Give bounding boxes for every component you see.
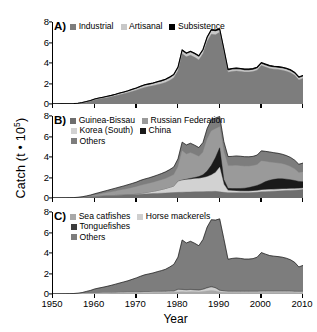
x-tick-label: 1990 xyxy=(208,298,229,309)
panel-b-x-tick-mark xyxy=(260,198,261,202)
panel-a-x-tick-mark xyxy=(177,104,178,108)
y-axis-label-paren: ) xyxy=(14,118,28,122)
legend-item: Others xyxy=(71,232,105,242)
x-tick-label: 2010 xyxy=(291,298,312,309)
panel-b-y-tick-mark xyxy=(49,115,53,116)
panel-c-x-tick-mark xyxy=(94,294,95,298)
legend-swatch-sea-catfishes xyxy=(70,214,76,220)
x-tick-label: 1970 xyxy=(125,298,146,309)
panel-c-x-tick-mark xyxy=(52,294,53,298)
x-tick-label: 2000 xyxy=(250,298,271,309)
legend-item: Korea (South) xyxy=(71,125,133,135)
panel-a-x-tick-mark xyxy=(260,104,261,108)
panel-a-x-tick-mark xyxy=(135,104,136,108)
panel-c-x-tick-mark xyxy=(219,294,220,298)
panel-c-label: C) xyxy=(54,211,66,221)
legend-item: Tonguefishes xyxy=(71,221,130,231)
panel-a-label: A) xyxy=(54,21,66,31)
legend-swatch-horse-mackerels xyxy=(137,214,143,220)
legend-row: A)IndustrialArtisanalSubsistence xyxy=(54,21,232,31)
panel-b-x-tick-mark xyxy=(177,198,178,202)
legend-swatch-china xyxy=(140,128,146,134)
panel-a-legend: A)IndustrialArtisanalSubsistence xyxy=(54,21,232,31)
panel-a-y-tick-mark xyxy=(49,62,53,63)
legend-swatch-others-c xyxy=(71,234,77,240)
panel-b-label: B) xyxy=(54,115,66,125)
x-tick-label: 1950 xyxy=(41,298,62,309)
legend-row: B)Guinea-BissauRussian Federation xyxy=(54,115,232,125)
legend-item: Horse mackerels xyxy=(137,211,210,221)
legend-label: Others xyxy=(80,232,106,242)
legend-row: Tonguefishes xyxy=(54,221,217,231)
legend-swatch-others-b xyxy=(71,138,77,144)
legend-item: Subsistence xyxy=(169,21,224,31)
panel-c-x-tick-mark xyxy=(177,294,178,298)
x-axis-label-text: Year xyxy=(129,312,187,326)
legend-row: Others xyxy=(54,136,232,146)
legend-swatch-russian-federation xyxy=(142,118,148,124)
panel-c-y-tick-mark xyxy=(49,273,53,274)
legend-row: C)Sea catfishesHorse mackerels xyxy=(54,211,217,221)
legend-swatch-industrial xyxy=(70,24,76,30)
panel-a-y-tick-mark xyxy=(49,42,53,43)
legend-row: Korea (South)China xyxy=(54,125,232,135)
panel-c-x-tick-mark xyxy=(302,294,303,298)
panel-a-x-tick-mark xyxy=(302,104,303,108)
legend-swatch-korea-south xyxy=(71,128,77,134)
legend-label: Horse mackerels xyxy=(146,211,210,221)
legend-row: Others xyxy=(54,232,217,242)
panel-b-y-tick-mark xyxy=(49,156,53,157)
panel-a-x-tick-mark xyxy=(52,104,53,108)
panel-b-x-tick-mark xyxy=(302,198,303,202)
panel-b-x-tick-mark xyxy=(135,198,136,202)
figure-root: Catch (t • 105) A)IndustrialArtisanalSub… xyxy=(0,0,317,332)
legend-item: Guinea-Bissau xyxy=(70,115,135,125)
panel-b-x-tick-mark xyxy=(219,198,220,202)
legend-item: Russian Federation xyxy=(142,115,225,125)
legend-swatch-subsistence xyxy=(169,24,175,30)
legend-label: Subsistence xyxy=(178,21,225,31)
x-axis-label: Year xyxy=(0,312,317,326)
y-axis-label-text: Catch (t xyxy=(14,150,28,199)
legend-label: Others xyxy=(80,136,106,146)
legend-swatch-artisanal xyxy=(121,24,127,30)
panel-a-y-tick-mark xyxy=(49,21,53,22)
legend-swatch-tonguefishes xyxy=(71,224,77,230)
legend-label: Sea catfishes xyxy=(79,211,131,221)
panel-b-y-tick-mark xyxy=(49,136,53,137)
panel-c-x-tick-mark xyxy=(135,294,136,298)
panel-b: B)Guinea-BissauRussian FederationKorea (… xyxy=(52,116,302,198)
panel-a-areas xyxy=(53,22,303,104)
y-axis-label-exponent: 5 xyxy=(12,122,22,127)
panel-b-y-tick-mark xyxy=(49,177,53,178)
panel-b-x-tick-mark xyxy=(94,198,95,202)
legend-label: Korea (South) xyxy=(80,125,134,135)
legend-item: China xyxy=(140,125,171,135)
legend-item: Industrial xyxy=(70,21,113,31)
panel-b-legend: B)Guinea-BissauRussian FederationKorea (… xyxy=(54,115,232,146)
panel-c-y-tick-mark xyxy=(49,252,53,253)
panel-a-plot-area xyxy=(52,22,302,104)
legend-label: Artisanal xyxy=(129,21,162,31)
legend-label: Guinea-Bissau xyxy=(79,115,135,125)
legend-item: Sea catfishes xyxy=(70,211,130,221)
panel-c-y-tick-mark xyxy=(49,232,53,233)
panel-c: C)Sea catfishesHorse mackerelsTonguefish… xyxy=(52,212,302,294)
x-tick-label: 1960 xyxy=(83,298,104,309)
panel-c-legend: C)Sea catfishesHorse mackerelsTonguefish… xyxy=(54,211,217,242)
legend-label: China xyxy=(149,125,171,135)
legend-item: Artisanal xyxy=(121,21,163,31)
legend-label: Industrial xyxy=(79,21,114,31)
panel-a-x-tick-mark xyxy=(94,104,95,108)
panel-a-y-tick-mark xyxy=(49,83,53,84)
legend-item: Others xyxy=(71,136,105,146)
legend-swatch-guinea-bissau xyxy=(70,118,76,124)
y-axis-label-dot: • 10 xyxy=(14,127,28,150)
panel-c-x-tick-mark xyxy=(260,294,261,298)
y-axis-label: Catch (t • 105) xyxy=(12,98,28,218)
legend-label: Tonguefishes xyxy=(80,221,131,231)
panel-b-x-tick-mark xyxy=(52,198,53,202)
legend-label: Russian Federation xyxy=(151,115,226,125)
panel-a-x-tick-mark xyxy=(219,104,220,108)
x-tick-label: 1980 xyxy=(166,298,187,309)
